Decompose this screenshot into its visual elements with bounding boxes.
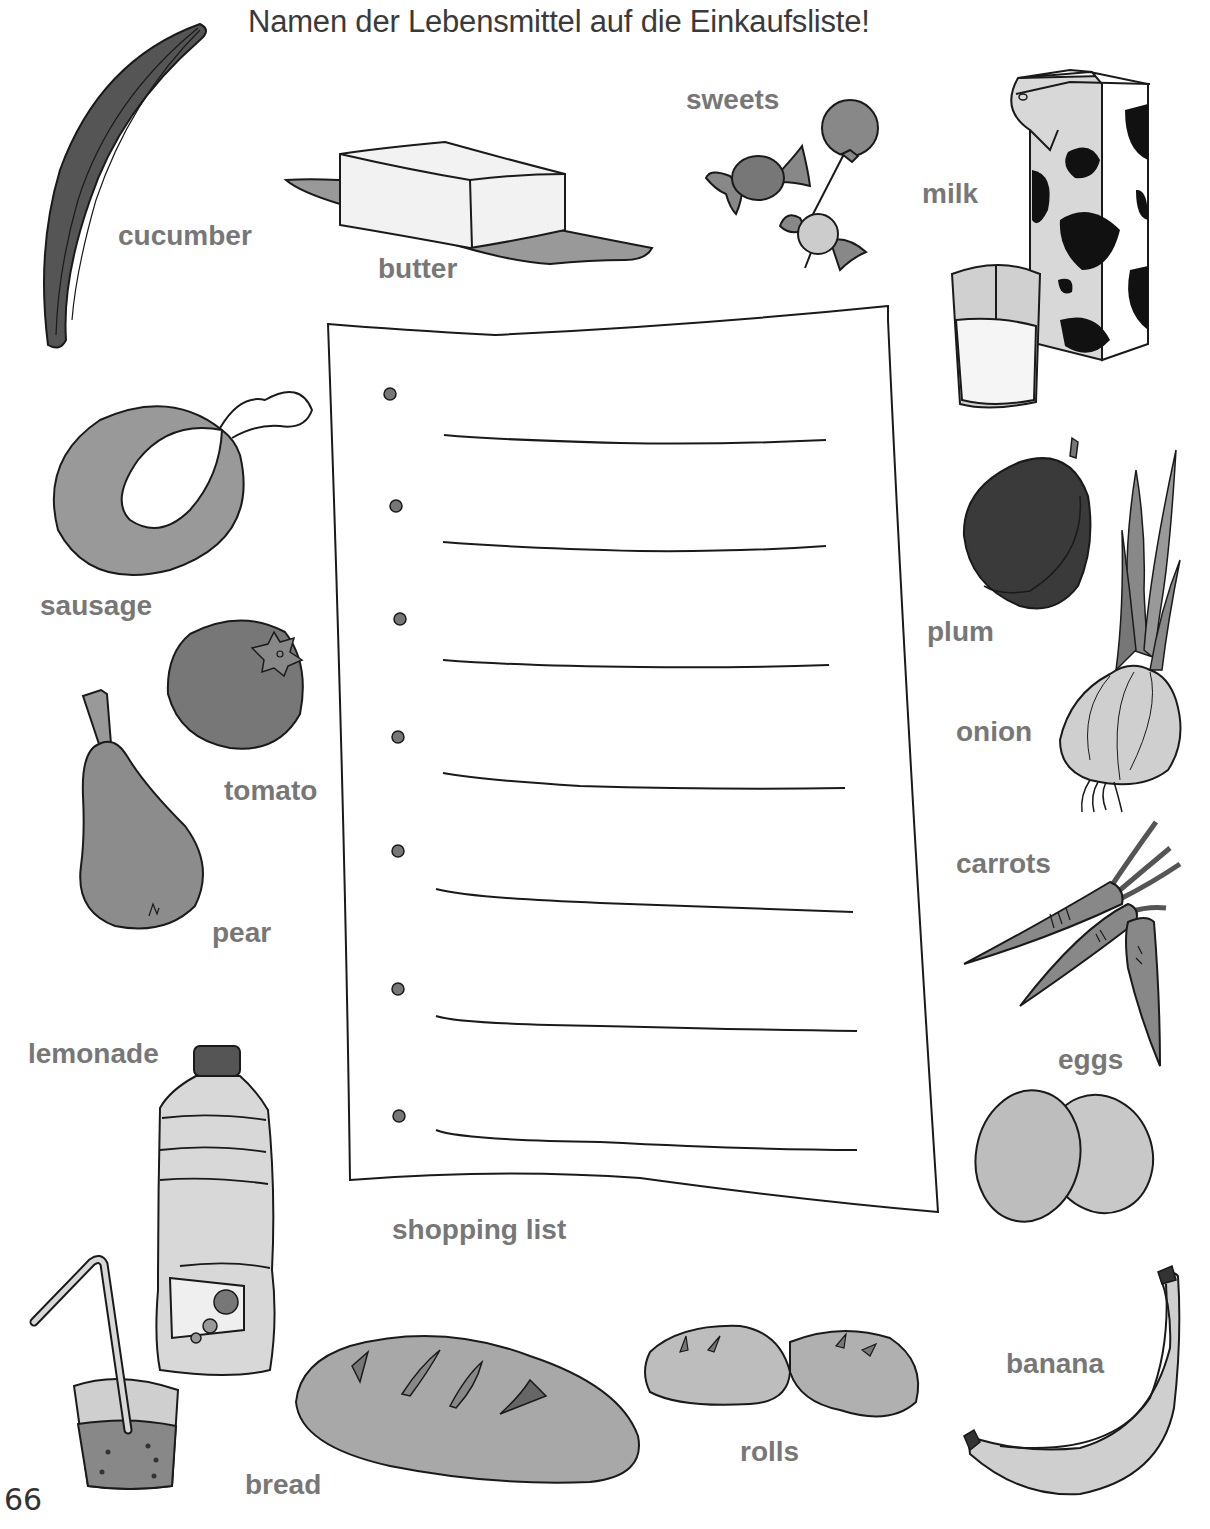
eggs-icon (966, 1086, 1166, 1231)
carrots-icon (960, 818, 1190, 1068)
shopping-list-line-5[interactable] (436, 875, 853, 911)
label-butter: butter (378, 253, 457, 285)
label-eggs: eggs (1058, 1044, 1123, 1076)
sausage-icon (50, 380, 320, 580)
label-cucumber: cucumber (118, 220, 252, 252)
bread-icon (290, 1326, 660, 1486)
shopping-list-line-2[interactable] (443, 517, 827, 551)
lemonade-icon (30, 1040, 280, 1500)
banana-icon (960, 1258, 1210, 1508)
label-tomato: tomato (224, 775, 317, 807)
shopping-list-line-4[interactable] (443, 752, 845, 788)
milk-icon (950, 70, 1210, 415)
label-bread: bread (245, 1469, 321, 1501)
label-pear: pear (212, 917, 271, 949)
shopping-list-line-7[interactable] (436, 1115, 857, 1151)
shopping-list-line-1[interactable] (444, 410, 828, 444)
label-onion: onion (956, 716, 1032, 748)
label-rolls: rolls (740, 1436, 799, 1468)
cucumber-icon (0, 0, 240, 360)
page-number: 66 (4, 1482, 42, 1517)
label-sausage: sausage (40, 590, 152, 622)
shopping-list-line-3[interactable] (443, 633, 829, 667)
sweets-icon (690, 90, 910, 270)
onion-icon (1050, 450, 1190, 820)
shopping-list-line-6[interactable] (436, 1000, 857, 1032)
shopping-list-label: shopping list (392, 1214, 566, 1246)
butter-icon (280, 130, 660, 250)
rolls-icon (640, 1322, 930, 1422)
pear-icon (75, 686, 215, 936)
label-plum: plum (927, 616, 994, 648)
